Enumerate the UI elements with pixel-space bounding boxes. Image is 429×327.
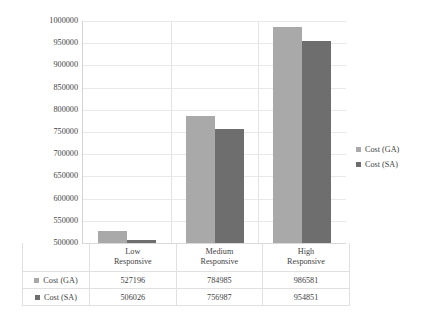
table-header-row: LowResponsiveMediumResponsiveHighRespons… [23, 243, 350, 272]
series-swatch-icon [34, 278, 39, 283]
data-table: LowResponsiveMediumResponsiveHighRespons… [22, 243, 350, 306]
table-column-header: MediumResponsive [176, 243, 263, 272]
table-cell-value: 784985 [176, 272, 263, 289]
y-axis-tick-label: 850000 [18, 84, 78, 92]
table-column-header: LowResponsive [90, 243, 177, 272]
y-axis-tick-label: 650000 [18, 172, 78, 180]
table-series-label: Cost (GA) [23, 272, 90, 289]
series-name: Cost (SA) [44, 293, 77, 302]
table-row: Cost (SA)506026756987954851 [23, 289, 350, 306]
gridline [83, 21, 346, 22]
table-cell-value: 756987 [176, 289, 263, 306]
category-separator [171, 21, 172, 243]
table-corner-cell [23, 243, 90, 272]
y-axis-tick-label: 550000 [18, 217, 78, 225]
table-cell-value: 954851 [263, 289, 350, 306]
plot-area [82, 21, 345, 243]
legend-item-cost-ga[interactable]: Cost (GA) [356, 142, 399, 157]
bar-ga[interactable] [98, 231, 127, 243]
legend-label-ga: Cost (GA) [365, 145, 399, 154]
series-name: Cost (GA) [43, 276, 77, 285]
table-cell-value: 986581 [263, 272, 350, 289]
series-swatch-icon [35, 295, 40, 300]
y-axis-tick-label: 600000 [18, 195, 78, 203]
category-separator [258, 21, 259, 243]
table-column-header: HighResponsive [263, 243, 350, 272]
table-series-label: Cost (SA) [23, 289, 90, 306]
legend-swatch-icon-ga [356, 147, 361, 152]
table-row: Cost (GA)527196784985986581 [23, 272, 350, 289]
y-axis-tick-label: 950000 [18, 39, 78, 47]
bar-sa[interactable] [302, 41, 331, 243]
table-cell-value: 506026 [90, 289, 177, 306]
legend-swatch-icon-sa [356, 162, 361, 167]
legend-label-sa: Cost (SA) [365, 160, 398, 169]
y-axis-tick-label: 750000 [18, 128, 78, 136]
table-cell-value: 527196 [90, 272, 177, 289]
bar-sa[interactable] [215, 129, 244, 243]
chart-legend: Cost (GA) Cost (SA) [356, 142, 399, 172]
bar-ga[interactable] [273, 27, 302, 243]
y-axis-tick-label: 700000 [18, 150, 78, 158]
bar-ga[interactable] [186, 116, 215, 243]
y-axis-tick-label: 800000 [18, 106, 78, 114]
y-axis-tick-label: 1000000 [18, 17, 78, 25]
legend-item-cost-sa[interactable]: Cost (SA) [356, 157, 399, 172]
y-axis-tick-label: 900000 [18, 61, 78, 69]
chart-container: Cost ($) 5000005500006000006500007000007… [0, 0, 429, 327]
